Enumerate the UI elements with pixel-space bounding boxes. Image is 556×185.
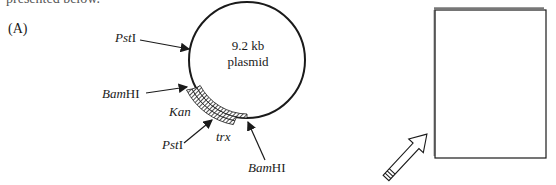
plasmid-size: 9.2 kb bbox=[218, 38, 278, 54]
site-label-bamhi-left: BamHI bbox=[102, 86, 140, 102]
gel-box bbox=[434, 9, 546, 159]
gene-label-kan: Kan bbox=[169, 104, 191, 120]
psti-lower-arrow bbox=[184, 120, 212, 143]
plasmid-word: plasmid bbox=[218, 54, 278, 70]
bamhi-bottom-arrow bbox=[248, 122, 265, 160]
plasmid-size-label: 9.2 kb plasmid bbox=[218, 38, 278, 70]
insert-band bbox=[187, 86, 248, 125]
psti-upper-arrow bbox=[140, 40, 189, 49]
hollow-arrow-icon bbox=[379, 127, 435, 185]
site-label-bamhi-bottom: BamHI bbox=[248, 160, 286, 176]
gene-label-trx: trx bbox=[216, 129, 230, 145]
site-label-psti-upper: PstI bbox=[115, 30, 136, 46]
bamhi-left-arrow bbox=[146, 87, 187, 93]
site-label-psti-lower: PstI bbox=[162, 137, 183, 153]
plasmid-diagram bbox=[0, 0, 556, 185]
